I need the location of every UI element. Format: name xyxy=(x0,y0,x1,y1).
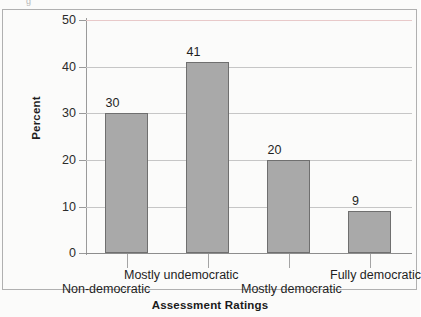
plot-area xyxy=(86,20,412,253)
bar-mostly-undemocratic[interactable] xyxy=(186,62,229,253)
x-category-label-non-democratic: Non-democratic xyxy=(62,283,150,296)
y-tick-20 xyxy=(79,160,86,161)
y-tick-50 xyxy=(79,20,86,21)
y-tick-label-0: 0 xyxy=(52,247,76,260)
y-tick-label-50: 50 xyxy=(52,14,76,27)
bar-value-non-democratic: 30 xyxy=(91,97,134,110)
y-tick-10 xyxy=(79,207,86,208)
y-tick-label-20: 20 xyxy=(52,154,76,167)
y-tick-label-40: 40 xyxy=(52,61,76,74)
y-tick-30 xyxy=(79,113,86,114)
x-tick-3 xyxy=(370,254,371,268)
bar-value-fully-democratic: 9 xyxy=(334,195,377,208)
bar-value-mostly-democratic: 20 xyxy=(253,144,296,157)
y-tick-40 xyxy=(79,67,86,68)
x-category-label-mostly-democratic: Mostly democratic xyxy=(241,283,342,296)
bar-fully-democratic[interactable] xyxy=(348,211,391,253)
x-axis-title: Assessment Ratings xyxy=(0,299,420,311)
y-axis-title: Percent xyxy=(30,78,42,158)
bar-non-democratic[interactable] xyxy=(105,113,148,253)
page-text-bleed: g xyxy=(26,0,32,6)
x-tick-2 xyxy=(289,254,290,268)
x-category-label-mostly-undemocratic: Mostly undemocratic xyxy=(124,269,239,282)
axis-baseline xyxy=(86,253,412,254)
x-tick-0 xyxy=(127,254,128,268)
x-tick-1 xyxy=(208,254,209,268)
y-tick-label-30: 30 xyxy=(52,107,76,120)
y-tick-label-10: 10 xyxy=(52,201,76,214)
bar-mostly-democratic[interactable] xyxy=(267,160,310,253)
y-tick-0 xyxy=(79,253,86,254)
x-category-label-fully-democratic: Fully democratic xyxy=(330,269,421,282)
bar-value-mostly-undemocratic: 41 xyxy=(172,46,215,59)
